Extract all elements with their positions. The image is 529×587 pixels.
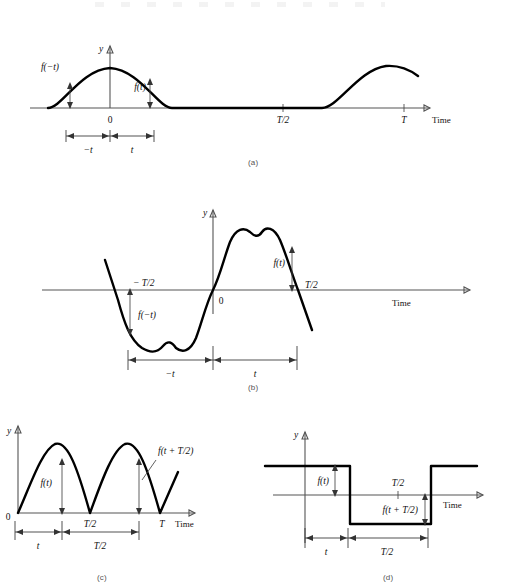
panel-d-yaxis-label: y bbox=[293, 430, 299, 440]
panel-a-label-f-t: f(t) bbox=[134, 82, 146, 93]
panel-d-time-label: Time bbox=[443, 500, 462, 510]
panel-b-caption: (b) bbox=[248, 383, 258, 392]
panel-b-origin-label: 0 bbox=[219, 296, 224, 306]
panel-d-label-f-t-plus-t-half: f(t + T/2) bbox=[383, 505, 418, 516]
panel-d-dim-label-t: t bbox=[325, 547, 328, 557]
panel-c-tick-label-t: T bbox=[159, 519, 165, 529]
panel-c-origin-label: 0 bbox=[6, 512, 11, 522]
panel-a-time-label: Time bbox=[432, 115, 451, 125]
panel-d-caption: (d) bbox=[383, 573, 393, 582]
panel-c-dimension-bars bbox=[15, 521, 139, 540]
panel-c: y 0 f(t) f(t + T/2) T/2 T Time t T/2 bbox=[0, 408, 265, 558]
panel-d-label-f-t: f(t) bbox=[317, 476, 329, 487]
panel-b-yaxis-label: y bbox=[202, 208, 208, 218]
scan-artifact-strip bbox=[95, 2, 385, 7]
panel-c-time-label: Time bbox=[175, 519, 194, 529]
panel-a-axes bbox=[30, 46, 430, 112]
panel-c-dim-label-t: t bbox=[37, 541, 40, 551]
panel-a-yaxis-label: y bbox=[98, 44, 104, 54]
panel-b-dim-label-t: t bbox=[254, 369, 257, 379]
panel-d: y f(t) f(t + T/2) T/2 Time t T/2 bbox=[265, 408, 529, 558]
panel-d-arrow-f-t-plus-t-half bbox=[422, 493, 428, 526]
panel-b-tick-label-minus-t-half: − T/2 bbox=[133, 278, 155, 288]
panel-b-dimension-bars bbox=[128, 346, 297, 370]
panel-a: y 0 f(−t) f(t) T/2 T Time −t t bbox=[0, 18, 529, 158]
panel-a-dimension-bars bbox=[66, 130, 154, 142]
panel-a-tick-label-t-half: T/2 bbox=[277, 115, 290, 125]
panel-b-label-f-minus-t: f(−t) bbox=[138, 310, 156, 321]
panel-d-axes bbox=[273, 432, 483, 543]
panel-a-dim-label-minus-t: −t bbox=[83, 145, 92, 155]
panel-a-caption: (a) bbox=[248, 158, 258, 167]
panel-a-origin-label: 0 bbox=[108, 115, 113, 125]
panel-c-label-f-t: f(t) bbox=[40, 478, 52, 489]
panel-a-dim-label-t: t bbox=[131, 145, 134, 155]
panel-a-waveform bbox=[48, 66, 418, 108]
panel-d-dimension-bars bbox=[305, 528, 428, 548]
panel-b-dim-label-minus-t: −t bbox=[165, 369, 174, 379]
panel-b-tick-label-t-half: T/2 bbox=[305, 280, 318, 290]
panel-c-tick-label-t-half: T/2 bbox=[84, 519, 97, 529]
panel-c-caption: (c) bbox=[97, 573, 107, 582]
panel-c-dim-label-t-half: T/2 bbox=[94, 541, 107, 551]
panel-c-label-f-t-plus-t-half: f(t + T/2) bbox=[158, 446, 193, 457]
panel-d-arrow-f-t bbox=[332, 464, 338, 497]
panel-a-tick-label-t: T bbox=[401, 115, 407, 125]
panel-b: y 0 − T/2 T/2 f(−t) f(t) Time −t t bbox=[0, 188, 529, 378]
panel-d-tick-label-t-half: T/2 bbox=[392, 478, 405, 488]
panel-a-label-f-minus-t: f(−t) bbox=[41, 62, 59, 73]
panel-b-label-f-t: f(t) bbox=[273, 258, 285, 269]
panel-b-time-label: Time bbox=[392, 298, 411, 308]
panel-d-dim-label-t-half: T/2 bbox=[381, 547, 394, 557]
panel-c-yaxis-label: y bbox=[6, 426, 12, 436]
panel-c-arrow-f-t bbox=[59, 458, 65, 515]
